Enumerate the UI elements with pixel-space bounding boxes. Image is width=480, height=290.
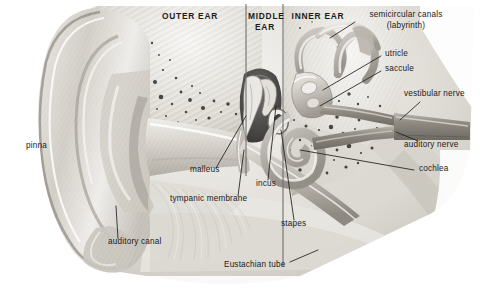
part-label-malleus: malleus [190, 165, 219, 175]
part-label-incus: incus [256, 179, 276, 189]
region-label-middle-ear-line1: MIDDLE [248, 11, 285, 21]
part-label-stapes: stapes [281, 219, 306, 229]
part-label-cochlea: cochlea [419, 164, 448, 174]
leader-malleus [216, 116, 246, 168]
leader-vestibular-nerve [400, 102, 420, 120]
semicircular-canals-line1: semicircular canals [369, 10, 442, 19]
leader-tympanic-membrane [238, 150, 244, 196]
part-label-auditory-nerve: auditory nerve [404, 140, 458, 150]
leader-semicircular-canals [330, 22, 355, 38]
part-label-tympanic-membrane: tympanic membrane [170, 194, 247, 204]
region-label-middle-ear: MIDDLE EAR [248, 11, 282, 33]
leader-cochlea [300, 150, 414, 170]
part-label-semicircular-canals: semicircular canals (labyrinth) [358, 10, 454, 31]
leader-stapes [281, 130, 294, 220]
region-label-outer-ear: OUTER EAR [150, 11, 230, 21]
part-label-vestibular-nerve: vestibular nerve [404, 89, 465, 99]
part-label-saccule: saccule [385, 64, 414, 74]
leader-auditory-canal [116, 206, 118, 239]
part-label-eustachian-tube: Eustachian tube [224, 260, 285, 270]
leader-saccule [320, 71, 381, 106]
part-label-pinna: pinna [26, 141, 47, 151]
semicircular-canals-line2: (labyrinth) [387, 21, 425, 30]
leader-eustachian-tube [290, 250, 318, 262]
leader-incus [268, 106, 276, 180]
part-label-utricle: utricle [385, 49, 408, 59]
region-label-inner-ear: INNER EAR [287, 11, 349, 21]
ear-anatomy-figure: OUTER EAR MIDDLE EAR INNER EAR semicircu… [0, 0, 480, 290]
part-label-auditory-canal: auditory canal [108, 237, 162, 247]
region-label-middle-ear-line2: EAR [255, 22, 275, 32]
leader-utricle [323, 56, 381, 90]
